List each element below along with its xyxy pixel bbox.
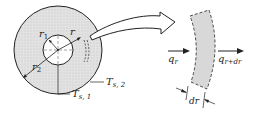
- qrdr-label: qr+dr: [218, 53, 242, 66]
- ts1-label: Ts, 1: [72, 88, 91, 101]
- qr-label: qr: [168, 53, 178, 66]
- dr-label: dr: [189, 96, 200, 106]
- differential-element: [190, 10, 215, 89]
- zoom-arrow: [90, 12, 175, 40]
- cylinder-conduction-diagram: r1 r r2 Ts, 2 Ts, 1 qr qr+dr dr: [0, 0, 258, 119]
- hollow-cylinder: [14, 6, 104, 94]
- ts2-label: Ts, 2: [106, 76, 126, 89]
